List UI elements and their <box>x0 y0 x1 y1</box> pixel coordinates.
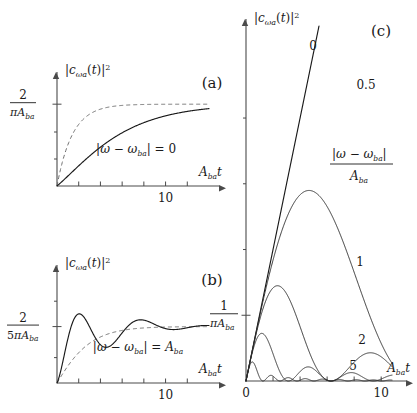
panel-c-curve-label-2: 2 <box>358 333 366 347</box>
physics-figure: |cωa(t)|22πAba10Abat|ω − ωba| = 0(a)|cωa… <box>0 0 417 413</box>
panel-c-curve-label-1: 1 <box>356 255 364 269</box>
panel-c-ytick-numerator: 1 <box>220 299 228 313</box>
panel-a-y-arrow <box>53 72 59 79</box>
panel-b-ytick-denominator: 5πAba <box>7 329 38 344</box>
panel-c-y-arrow <box>242 19 248 26</box>
panel-c-xtick-label-10: 10 <box>374 386 389 400</box>
panel-b-y-arrow <box>53 265 59 272</box>
panel-b-ytick-numerator: 2 <box>19 311 27 325</box>
panel-a-tag: (a) <box>202 74 223 92</box>
panel-b-tag: (b) <box>201 271 222 289</box>
panel-a-xlabel: Abat <box>198 165 222 181</box>
panel-c-ylabel: |cωa(t)|2 <box>254 11 299 27</box>
panel-c-ytick-denominator: πAba <box>209 317 234 332</box>
panel-c-legend-denominator: Aba <box>349 169 368 185</box>
panel-b-ylabel: |cωa(t)|2 <box>65 256 110 272</box>
panel-a-x-arrow <box>219 185 226 191</box>
panel-c-xtick-label-0: 0 <box>242 386 250 400</box>
panel-a-ytick-denominator: πAba <box>9 106 34 121</box>
panel-c-legend-numerator: |ω − ωba| <box>332 147 387 163</box>
panel-a-ytick-numerator: 2 <box>19 88 27 102</box>
panel-b-dashed-curve <box>57 327 209 383</box>
panel-b-xtick-label-10: 10 <box>158 388 173 402</box>
panel-c-tag: (c) <box>371 22 391 40</box>
panel-a-annotation: |ω − ωba| = 0 <box>96 142 176 158</box>
panel-c-curve-label-5: 5 <box>349 359 357 373</box>
panel-a-ylabel: |cωa(t)|2 <box>65 63 110 79</box>
panel-c-x-arrow <box>406 380 413 386</box>
panel-a-xtick-label-10: 10 <box>158 191 173 205</box>
panel-c-curve-2 <box>246 333 392 381</box>
panel-b-xlabel: Abat <box>198 362 222 378</box>
panel-b-annotation: |ω − ωba| = Aba <box>93 340 183 356</box>
panel-c-curve-1 <box>246 286 392 381</box>
panel-c-curve-label-0.5: 0.5 <box>356 78 375 92</box>
panel-c-xlabel: Abat <box>386 361 410 377</box>
panel-b-x-arrow <box>219 382 226 388</box>
panel-c-curve-label-0: 0 <box>309 39 317 53</box>
figure-canvas: |cωa(t)|22πAba10Abat|ω − ωba| = 0(a)|cωa… <box>0 0 417 413</box>
